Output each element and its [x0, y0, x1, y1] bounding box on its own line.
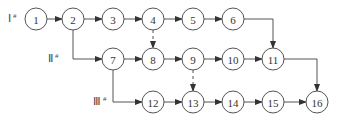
node-3: 3: [102, 8, 124, 30]
node-9: 9: [182, 48, 204, 70]
node-label: 15: [268, 97, 280, 109]
node-16: 16: [306, 91, 328, 113]
edge-6-to-11: [244, 19, 273, 48]
node-label: 12: [148, 97, 159, 109]
row-2-label: Ⅱ#: [48, 52, 59, 64]
row-numeral: Ⅲ: [93, 95, 101, 107]
row-numeral: Ⅱ: [48, 52, 53, 64]
node-11: 11: [262, 48, 284, 70]
edge-7-to-12: [113, 70, 142, 102]
node-label: 10: [228, 54, 240, 66]
node-8: 8: [142, 48, 164, 70]
node-label: 8: [150, 54, 156, 66]
node-label: 1: [33, 14, 39, 26]
row-superscript: #: [55, 52, 59, 60]
node-12: 12: [142, 91, 164, 113]
row-numeral: Ⅰ: [8, 12, 11, 24]
node-label: 11: [268, 54, 279, 66]
node-13: 13: [182, 91, 204, 113]
node-label: 7: [110, 54, 116, 66]
nodes-layer: 12345678910111213141516: [25, 8, 328, 113]
row-3-label: Ⅲ#: [93, 95, 107, 107]
node-label: 13: [188, 97, 200, 109]
node-2: 2: [62, 8, 84, 30]
node-label: 3: [110, 14, 116, 26]
edge-2-to-7: [73, 30, 102, 59]
node-label: 5: [190, 14, 196, 26]
node-label: 6: [230, 14, 236, 26]
node-label: 2: [70, 14, 76, 26]
node-label: 16: [312, 97, 324, 109]
node-5: 5: [182, 8, 204, 30]
node-10: 10: [222, 48, 244, 70]
node-1: 1: [25, 8, 47, 30]
node-4: 4: [142, 8, 164, 30]
network-diagram: 12345678910111213141516 Ⅰ#Ⅱ#Ⅲ#: [0, 0, 338, 125]
node-label: 14: [228, 97, 240, 109]
node-14: 14: [222, 91, 244, 113]
row-superscript: #: [103, 95, 107, 103]
node-label: 4: [150, 14, 156, 26]
edge-11-to-16: [284, 59, 317, 91]
node-6: 6: [222, 8, 244, 30]
node-label: 9: [190, 54, 196, 66]
row-superscript: #: [13, 12, 17, 20]
row-1-label: Ⅰ#: [8, 12, 17, 24]
node-15: 15: [262, 91, 284, 113]
node-7: 7: [102, 48, 124, 70]
